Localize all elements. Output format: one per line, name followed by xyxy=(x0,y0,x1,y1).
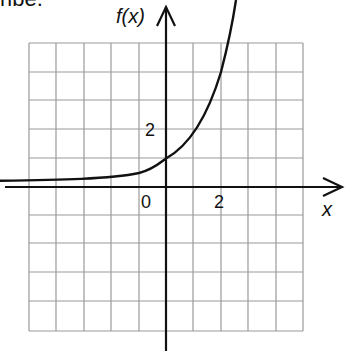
x-tick-label: 2 xyxy=(214,192,224,213)
x-axis-label: x xyxy=(322,198,332,221)
origin-label: 0 xyxy=(141,192,151,213)
graph xyxy=(0,0,355,355)
y-axis-label: f(x) xyxy=(116,5,145,28)
y-tick-label: 2 xyxy=(145,120,155,141)
